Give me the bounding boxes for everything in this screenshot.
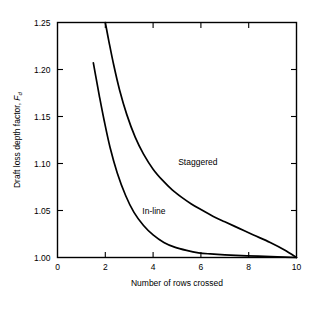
data-curves bbox=[93, 23, 296, 258]
y-axis-title-text: Draft loss depth factor, bbox=[12, 101, 22, 188]
curve-labels: StaggeredIn-line bbox=[142, 157, 217, 216]
y-axis-title-subscript: d bbox=[16, 91, 23, 95]
x-tick-label: 2 bbox=[103, 262, 108, 272]
chart-figure: 0246810 1.001.051.101.151.201.25 Stagger… bbox=[0, 0, 334, 309]
curve-staggered bbox=[105, 23, 296, 258]
curve-label-in-line: In-line bbox=[142, 206, 165, 216]
x-tick-label: 6 bbox=[199, 262, 204, 272]
x-axis-title: Number of rows crossed bbox=[131, 278, 223, 288]
x-tick-label: 0 bbox=[55, 262, 60, 272]
axes-frame bbox=[58, 23, 297, 258]
plot-frame bbox=[58, 23, 297, 258]
y-axis-tick-labels: 1.001.051.101.151.201.25 bbox=[34, 18, 51, 263]
y-tick-label: 1.20 bbox=[34, 65, 51, 75]
x-tick-label: 10 bbox=[292, 262, 302, 272]
y-tick-label: 1.10 bbox=[34, 159, 51, 169]
curve-label-staggered: Staggered bbox=[178, 157, 217, 167]
x-tick-label: 8 bbox=[246, 262, 251, 272]
draft-loss-depth-factor-chart: 0246810 1.001.051.101.151.201.25 Stagger… bbox=[0, 0, 334, 309]
y-axis-ticks bbox=[58, 70, 297, 211]
y-axis-title: Draft loss depth factor, Fd bbox=[12, 91, 23, 188]
x-axis-tick-labels: 0246810 bbox=[55, 262, 301, 272]
x-tick-label: 4 bbox=[151, 262, 156, 272]
y-tick-label: 1.25 bbox=[34, 18, 51, 28]
y-tick-label: 1.00 bbox=[34, 253, 51, 263]
y-tick-label: 1.15 bbox=[34, 112, 51, 122]
y-tick-label: 1.05 bbox=[34, 206, 51, 216]
